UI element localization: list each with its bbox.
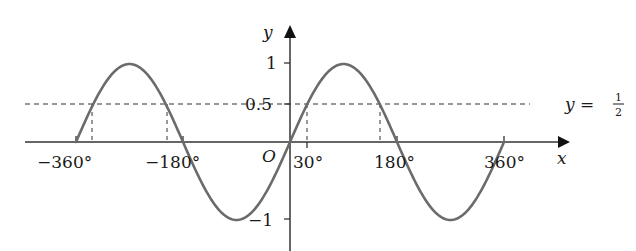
intersection-guides (92, 104, 380, 142)
y-axis-label: y (262, 22, 273, 42)
y-axis-arrow-icon (284, 25, 296, 38)
y-tick-label-1: 1 (266, 53, 277, 73)
svg-text:1: 1 (615, 91, 622, 104)
y-tick-label-0-5: 0.5 (245, 94, 272, 114)
reference-line-label: y = 1 2 (564, 91, 624, 119)
y-tick-label-neg1: −1 (248, 210, 273, 230)
svg-text:y =: y = (564, 94, 594, 114)
x-tick-label-360: 360° (484, 152, 525, 172)
svg-text:2: 2 (615, 106, 622, 119)
sine-graph: y 1 0.5 −1 −360° −180° O 30° 180° 360° x… (0, 0, 636, 251)
x-tick-label-180: 180° (374, 152, 415, 172)
x-axis-label: x (557, 148, 567, 168)
x-tick-label-neg180: −180° (145, 152, 200, 172)
x-tick-label-30: 30° (293, 152, 323, 172)
x-tick-label-neg360: −360° (37, 152, 92, 172)
origin-label: O (262, 146, 276, 166)
x-axis-arrow-icon (558, 136, 570, 148)
